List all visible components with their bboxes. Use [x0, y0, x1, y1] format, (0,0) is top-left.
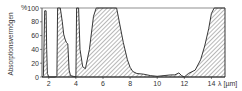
x-axis: 2468101214 — [47, 77, 216, 87]
x-tick-label: 6 — [101, 80, 105, 87]
y-unit-label: % — [21, 4, 27, 11]
y-axis: 020406080100 — [27, 5, 42, 81]
y-tick-label: 100 — [27, 5, 39, 12]
y-tick-label: 80 — [31, 18, 39, 25]
x-axis-title: λ [µm] — [218, 80, 237, 88]
x-tick-label: 14 — [208, 80, 216, 87]
y-tick-label: 60 — [31, 32, 39, 39]
x-tick-label: 10 — [153, 80, 161, 87]
x-tick-label: 4 — [74, 80, 78, 87]
y-tick-label: 0 — [35, 74, 39, 81]
y-tick-label: 20 — [31, 60, 39, 67]
absorption-area — [42, 8, 225, 77]
x-tick-label: 12 — [180, 80, 188, 87]
x-tick-label: 2 — [47, 80, 51, 87]
y-tick-label: 40 — [31, 46, 39, 53]
y-axis-title: Absorptionsvermögen — [7, 12, 15, 76]
absorption-chart: Absorptionsvermögen % 020406080100 24681… — [0, 0, 242, 91]
x-tick-label: 8 — [128, 80, 132, 87]
